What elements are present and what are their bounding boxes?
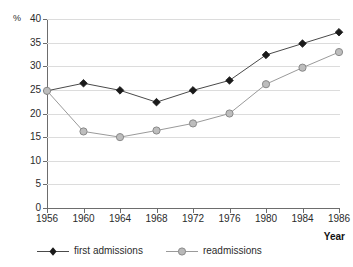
x-axis-tick-label: 1976 xyxy=(218,214,240,224)
data-point-circle xyxy=(189,120,196,127)
data-point-diamond xyxy=(262,51,270,59)
data-point-diamond xyxy=(153,98,161,106)
y-axis-tick-label: 30 xyxy=(30,61,41,71)
y-axis-tick-label: 40 xyxy=(30,14,41,24)
legend-item-readmissions: readmissions xyxy=(165,246,262,257)
y-axis-tick-label: 35 xyxy=(30,38,41,48)
series-plot xyxy=(47,19,340,209)
x-axis-tick-label: 1964 xyxy=(109,214,131,224)
y-axis-tick-label: 5 xyxy=(35,179,41,189)
x-axis-tick-label: 1986 xyxy=(328,214,350,224)
data-point-circle xyxy=(226,110,233,117)
chart-legend: first admissions readmissions xyxy=(36,243,262,259)
data-point-circle xyxy=(335,48,342,55)
y-axis-tick-labels: 0510152025303540 xyxy=(20,19,41,209)
x-axis-tick-label: 1956 xyxy=(36,214,58,224)
x-axis-tick-label: 1972 xyxy=(182,214,204,224)
legend-label-first-admissions: first admissions xyxy=(74,246,143,256)
series-first-admissions xyxy=(43,28,343,106)
data-point-diamond xyxy=(189,87,197,95)
data-point-circle xyxy=(116,134,123,141)
x-axis-tick-label: 1980 xyxy=(255,214,277,224)
y-axis-tick-label: 25 xyxy=(30,85,41,95)
data-point-diamond xyxy=(80,79,88,87)
data-point-circle xyxy=(80,128,87,135)
y-axis-tick-label: 20 xyxy=(30,109,41,119)
y-axis-tick-label: 15 xyxy=(30,132,41,142)
circle-marker-icon xyxy=(165,246,199,257)
y-axis-tick-label: 0 xyxy=(35,203,41,213)
legend-label-readmissions: readmissions xyxy=(203,246,262,256)
data-point-diamond xyxy=(226,77,234,85)
data-point-circle xyxy=(262,81,269,88)
x-axis-title: Year xyxy=(324,232,345,242)
data-point-diamond xyxy=(299,40,307,48)
x-axis-tick-label: 1960 xyxy=(72,214,94,224)
data-point-diamond xyxy=(335,28,343,36)
x-axis-tick-label: 1984 xyxy=(291,214,313,224)
diamond-marker-icon xyxy=(36,246,70,257)
line-chart: % 0510152025303540 195619601964196819721… xyxy=(0,0,353,267)
x-axis-tick-label: 1968 xyxy=(145,214,167,224)
plot-area xyxy=(47,19,340,209)
data-point-circle xyxy=(299,64,306,71)
data-point-circle xyxy=(43,87,50,94)
data-point-diamond xyxy=(116,87,124,95)
legend-item-first-admissions: first admissions xyxy=(36,246,143,257)
data-point-circle xyxy=(153,127,160,134)
y-axis-tick-label: 10 xyxy=(30,156,41,166)
